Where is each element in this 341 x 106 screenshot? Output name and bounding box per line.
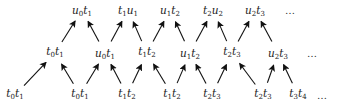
arrow-B4-to-M4 — [218, 65, 227, 84]
arrow-B3-to-M3 — [177, 65, 185, 83]
subscript: 2 — [196, 53, 200, 61]
arrow-B4-to-M3 — [196, 65, 206, 84]
subscript: 1 — [134, 10, 138, 18]
arrow-M3-to-T2 — [176, 22, 185, 41]
lattice-diagram: u0t1t1u1u1t2t2u2u2t3t0t1u0t1t1t2u1t2t2t3… — [0, 0, 341, 106]
arrow-M1-to-T0 — [88, 22, 99, 42]
arrow-B5-to-M5 — [267, 65, 273, 83]
node-top-3: t2u2 — [203, 4, 223, 18]
node-top-4: u2t3 — [245, 4, 265, 18]
arrow-M0-to-T0 — [62, 21, 75, 42]
subscript: 1 — [84, 93, 88, 101]
arrow-B2-to-M2 — [133, 65, 142, 84]
subscript: 1 — [59, 51, 63, 59]
node-middle-5: u2t3 — [268, 47, 288, 61]
node-top-0: u0t1 — [72, 4, 92, 18]
arrow-M3-to-T3 — [196, 22, 207, 42]
arrow-edges — [24, 21, 292, 86]
node-bottom-6: t3t4 — [289, 87, 307, 101]
node-middle-2: t1t2 — [138, 45, 155, 59]
ellipsis-top: … — [285, 5, 295, 16]
node-bottom-3: t1t2 — [163, 87, 180, 101]
subscript: 2 — [151, 51, 155, 59]
arrow-B5-to-M4 — [240, 64, 256, 85]
node-middle-4: t2t3 — [223, 45, 240, 59]
node-labels: u0t1t1u1u1t2t2u2u2t3t0t1u0t1t1t2u1t2t2t3… — [6, 4, 307, 101]
node-bottom-5: t2t3 — [254, 87, 271, 101]
node-middle-3: u1t2 — [180, 47, 200, 61]
subscript: 3 — [216, 93, 220, 101]
subscript: 2 — [176, 93, 180, 101]
subscript: 3 — [284, 53, 288, 61]
arrow-M1-to-T1 — [111, 22, 122, 42]
subscript: 3 — [267, 93, 271, 101]
node-top-2: u1t2 — [160, 4, 180, 18]
subscript: 3 — [236, 51, 240, 59]
arrow-M4-to-T3 — [218, 22, 226, 41]
subscript: 3 — [261, 10, 265, 18]
arrow-B2-to-M1 — [111, 65, 121, 84]
arrow-B1-to-M1 — [87, 64, 99, 84]
subscript: 2 — [176, 10, 180, 18]
subscript: 1 — [19, 93, 23, 101]
node-bottom-4: t2t3 — [203, 87, 220, 101]
ellipsis-bottom: … — [317, 90, 327, 101]
arrow-B0-to-M0 — [24, 62, 46, 85]
node-middle-0: t0t1 — [46, 45, 63, 59]
arrow-M5-to-T4 — [261, 22, 272, 42]
node-bottom-1: t0t1 — [71, 87, 88, 101]
arrow-M2-to-T1 — [133, 22, 141, 41]
arrow-M2-to-T2 — [153, 22, 164, 42]
subscript: 2 — [131, 93, 135, 101]
subscript: 1 — [111, 53, 115, 61]
subscript: 1 — [88, 10, 92, 18]
node-top-1: t1u1 — [118, 4, 138, 18]
arrow-B3-to-M2 — [154, 64, 166, 84]
arrow-B1-to-M0 — [62, 64, 74, 84]
node-bottom-2: t1t2 — [118, 87, 135, 101]
node-middle-1: u0t1 — [95, 47, 115, 61]
subscript: 4 — [302, 93, 307, 101]
node-bottom-0: t0t1 — [6, 87, 23, 101]
ellipsis-middle: … — [307, 48, 317, 59]
subscript: 2 — [219, 10, 223, 18]
arrow-M4-to-T4 — [238, 22, 249, 42]
arrow-B6-to-M5 — [284, 65, 293, 84]
